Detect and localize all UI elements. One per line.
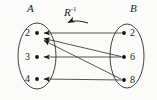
set-b-dot-2 (122, 31, 126, 35)
set-b-dot-6 (122, 55, 126, 59)
set-b-dot-8 (122, 78, 126, 82)
set-b-element-0: 2 (130, 28, 135, 38)
set-b-label: B (130, 3, 137, 14)
relation-label-base: R (64, 6, 71, 18)
set-b-ellipse (110, 24, 144, 88)
figure-canvas: A B R-1 2 3 4 2 6 8 (0, 0, 157, 100)
set-b-element-2: 8 (130, 75, 135, 85)
set-a-label: A (27, 3, 34, 14)
diagram-svg (0, 0, 157, 100)
set-a-dot-2 (35, 31, 39, 35)
relation-label: R-1 (64, 6, 77, 18)
set-a-element-1: 3 (25, 52, 30, 62)
arrow-b8-to-a4 (44, 79, 122, 80)
relation-direction-arrow (68, 21, 88, 23)
relation-label-exponent: -1 (71, 5, 77, 13)
set-a-dot-3 (35, 55, 39, 59)
set-a-element-0: 2 (25, 28, 30, 38)
set-a-element-2: 4 (25, 74, 30, 84)
set-b-element-1: 6 (130, 52, 135, 62)
set-a-dot-4 (35, 77, 39, 81)
